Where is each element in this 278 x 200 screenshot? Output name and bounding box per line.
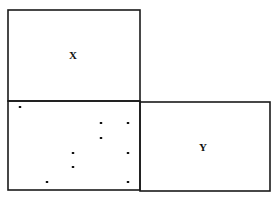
dot	[72, 166, 74, 168]
region-dots-box	[8, 101, 140, 190]
region-x: X	[8, 10, 140, 101]
dot	[72, 152, 74, 154]
region-dots	[8, 101, 140, 190]
region-x-label: X	[69, 49, 77, 61]
region-y-label: Y	[199, 141, 207, 153]
region-y: Y	[140, 102, 270, 191]
dot	[127, 152, 129, 154]
dot	[100, 122, 102, 124]
dot	[19, 106, 21, 108]
dot	[100, 137, 102, 139]
dot	[46, 181, 48, 183]
dot	[127, 181, 129, 183]
diagram-canvas: X Y	[0, 0, 278, 200]
dot-cluster	[19, 106, 129, 183]
dot	[127, 122, 129, 124]
